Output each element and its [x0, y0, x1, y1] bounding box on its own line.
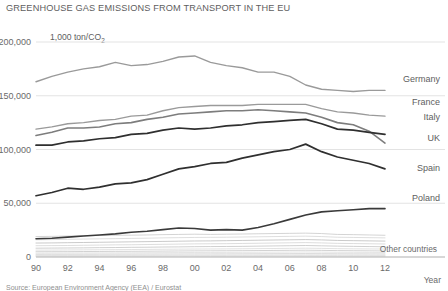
- series-line-france: [36, 104, 385, 129]
- x-tick-label: 98: [158, 263, 168, 273]
- series-lines: [36, 56, 385, 239]
- y-tick-label: 200,000: [0, 37, 31, 47]
- series-labels: GermanyFranceItalyUKSpainPoland: [403, 74, 441, 203]
- x-tick-label: 06: [285, 263, 295, 273]
- series-line-spain: [36, 144, 385, 196]
- series-label-germany: Germany: [403, 74, 441, 84]
- series-line-germany: [36, 56, 385, 91]
- x-tick-label: 00: [190, 263, 200, 273]
- series-label-poland: Poland: [412, 193, 440, 203]
- series-label-italy: Italy: [423, 112, 440, 122]
- series-label-france: France: [412, 97, 440, 107]
- other-country-line: [36, 254, 385, 255]
- x-tick-label: 90: [31, 263, 41, 273]
- y-axis-ticks: 050,000100,000150,000200,000: [0, 37, 31, 262]
- y-tick-label: 50,000: [3, 198, 31, 208]
- series-label-spain: Spain: [417, 163, 440, 173]
- x-tick-label: 12: [380, 263, 390, 273]
- series-line-italy: [36, 110, 385, 143]
- source-note: Source: European Environment Agency (EEA…: [6, 284, 181, 291]
- other-countries-label: Other countries: [380, 244, 437, 254]
- x-tick-label: 10: [348, 263, 358, 273]
- x-tick-label: 08: [317, 263, 327, 273]
- x-tick-label: 02: [221, 263, 231, 273]
- x-tick-label: 96: [126, 263, 136, 273]
- y-tick-label: 150,000: [0, 91, 31, 101]
- y-tick-label: 100,000: [0, 145, 31, 155]
- other-country-line: [36, 248, 385, 250]
- gridlines: [36, 42, 445, 257]
- x-axis-title: Year: [424, 275, 442, 285]
- other-country-line: [36, 250, 385, 252]
- x-tick-label: 04: [253, 263, 263, 273]
- x-tick-label: 92: [63, 263, 73, 273]
- series-line-uk: [36, 119, 385, 145]
- series-label-uk: UK: [427, 133, 440, 143]
- x-tick-label: 94: [94, 263, 104, 273]
- x-axis-ticks: 909294969800020406081012: [31, 263, 390, 273]
- other-countries-band: [36, 233, 385, 256]
- y-tick-label: 0: [26, 252, 31, 262]
- other-country-line: [36, 252, 385, 253]
- other-country-line: [36, 246, 385, 249]
- other-country-line: [36, 236, 385, 240]
- other-country-line: [36, 243, 385, 246]
- other-country-line: [36, 240, 385, 243]
